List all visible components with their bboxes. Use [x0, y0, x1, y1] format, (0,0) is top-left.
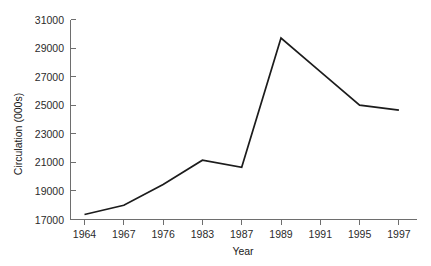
y-tick-label-23000: 23000 [35, 128, 64, 140]
y-axis-group: 31000 29000 27000 25000 23000 21000 1900… [12, 14, 76, 226]
x-tick-label-1989: 1989 [269, 228, 293, 240]
x-tick-label-1991: 1991 [309, 228, 333, 240]
y-tick-label-27000: 27000 [35, 71, 64, 83]
y-tick-label-21000: 21000 [35, 156, 64, 168]
line-chart: 31000 29000 27000 25000 23000 21000 1900… [0, 0, 431, 266]
x-tick-label-1976: 1976 [151, 228, 175, 240]
x-axis-title: Year [232, 245, 254, 257]
y-axis-title: Circulation (000s) [12, 93, 24, 175]
x-tick-label-1995: 1995 [348, 228, 372, 240]
y-tick-label-17000: 17000 [35, 214, 64, 226]
x-tick-label-1964: 1964 [73, 228, 97, 240]
y-tick-label-29000: 29000 [35, 42, 64, 54]
chart-container: 31000 29000 27000 25000 23000 21000 1900… [0, 0, 431, 266]
x-tick-label-1997: 1997 [387, 228, 411, 240]
y-tick-label-25000: 25000 [35, 99, 64, 111]
y-tick-label-31000: 31000 [35, 14, 64, 26]
x-tick-label-1983: 1983 [191, 228, 215, 240]
series-line-circulation [85, 38, 399, 214]
x-tick-label-1987: 1987 [230, 228, 254, 240]
x-tick-label-1967: 1967 [112, 228, 136, 240]
y-tick-label-19000: 19000 [35, 185, 64, 197]
series-group [85, 38, 399, 214]
x-axis-group: 1964 1967 1976 1983 1987 1989 1991 1995 … [71, 220, 417, 258]
